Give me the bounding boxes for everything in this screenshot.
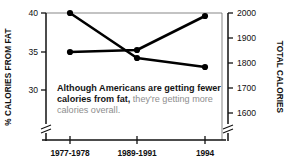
data-point-pct-fat-3 <box>202 64 208 70</box>
annotation-line-2: calories from fat, they're getting more <box>57 94 213 104</box>
left-axis-break-upper <box>41 125 51 129</box>
x-axis: 1977-1978 1989-1991 1994 <box>42 136 226 158</box>
right-tick-label-1900: 1900 <box>237 33 256 43</box>
chart-figure: 40 35 30 % CALORIES FROM FAT 2000 1900 1… <box>0 0 285 161</box>
x-tick-label-3: 1994 <box>196 148 215 158</box>
data-point-total-calories-3 <box>202 13 208 19</box>
annotation-line-3: calories overall. <box>57 105 120 115</box>
right-axis: 2000 1900 1800 1700 1600 TOTAL CALORIES <box>223 8 284 141</box>
x-tick-label-2: 1989-1991 <box>117 148 157 158</box>
series-total-calories <box>67 13 208 55</box>
data-point-pct-fat-2 <box>134 55 140 61</box>
annotation-line-2-strong: calories from fat, <box>57 94 130 104</box>
left-tick-label-40: 40 <box>28 8 38 18</box>
right-axis-break-upper <box>223 125 233 129</box>
right-tick-label-2000: 2000 <box>237 8 256 18</box>
right-tick-label-1600: 1600 <box>237 108 256 118</box>
data-point-total-calories-1 <box>67 49 73 55</box>
series-line-total-calories <box>70 16 205 52</box>
x-tick-label-1: 1977-1978 <box>50 148 90 158</box>
annotation-line-1: Although Americans are getting fewer <box>57 83 221 93</box>
left-tick-label-30: 30 <box>28 85 38 95</box>
right-axis-title: TOTAL CALORIES <box>275 41 284 114</box>
series-pct-calories-from-fat <box>67 10 208 70</box>
left-tick-label-35: 35 <box>28 47 38 57</box>
data-point-pct-fat-1 <box>67 10 73 16</box>
chart-annotation: Although Americans are getting fewer cal… <box>57 83 221 115</box>
left-axis: 40 35 30 % CALORIES FROM FAT <box>4 8 51 141</box>
line-chart: 40 35 30 % CALORIES FROM FAT 2000 1900 1… <box>0 0 285 161</box>
annotation-line-2-soft: they're getting more <box>130 94 213 104</box>
left-axis-title: % CALORIES FROM FAT <box>4 28 13 125</box>
right-tick-label-1700: 1700 <box>237 83 256 93</box>
right-axis-break-lower <box>223 129 233 133</box>
data-point-total-calories-2 <box>134 47 140 53</box>
right-tick-label-1800: 1800 <box>237 58 256 68</box>
left-axis-break-lower <box>41 129 51 133</box>
